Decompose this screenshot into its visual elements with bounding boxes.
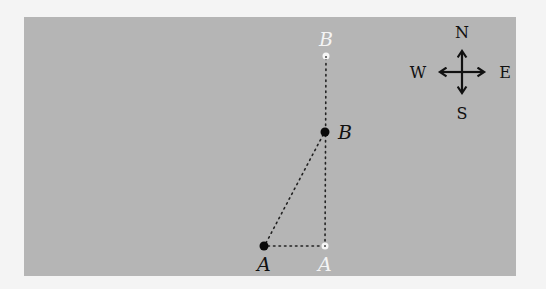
point-b-old bbox=[323, 53, 330, 60]
label-b: B bbox=[337, 121, 352, 143]
compass-west: W bbox=[410, 63, 427, 82]
point-a-old bbox=[322, 243, 329, 250]
label-b-old: B bbox=[318, 28, 333, 50]
compass-rose-icon bbox=[441, 52, 483, 92]
compass-east: E bbox=[499, 63, 511, 82]
compass-north: N bbox=[455, 23, 469, 42]
line-bold-to-aold bbox=[325, 58, 326, 244]
label-a: A bbox=[255, 253, 271, 275]
label-a-old: A bbox=[316, 253, 332, 275]
diagram-canvas: B B A A N S W E bbox=[0, 0, 546, 289]
dotted-lines bbox=[266, 58, 326, 246]
point-a bbox=[260, 242, 269, 251]
line-a-to-b bbox=[266, 135, 323, 243]
point-b bbox=[321, 128, 330, 137]
compass-south: S bbox=[457, 104, 468, 123]
